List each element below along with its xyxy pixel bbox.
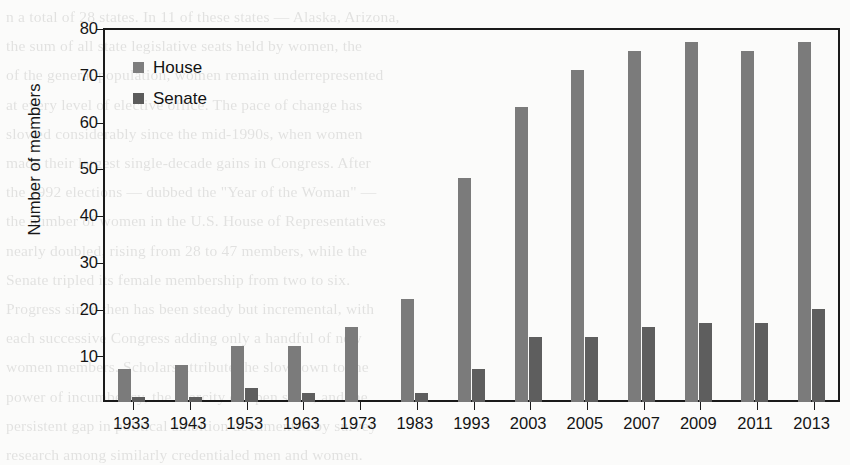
legend-item-senate: Senate xyxy=(133,83,207,114)
y-tick-label: 20 xyxy=(64,300,98,319)
bar-senate-2009 xyxy=(699,323,712,402)
y-tick-label: 70 xyxy=(64,66,98,85)
bar-group xyxy=(685,28,712,402)
x-tick-label: 1943 xyxy=(160,414,216,433)
bar-senate-1963 xyxy=(302,393,315,402)
bar-house-1953 xyxy=(231,346,244,402)
y-tick-label: 10 xyxy=(64,347,98,366)
bar-house-2011 xyxy=(741,51,754,402)
bar-senate-1943 xyxy=(189,397,202,402)
y-axis-title: Number of members xyxy=(25,30,44,290)
bar-group xyxy=(401,28,428,402)
bar-senate-1993 xyxy=(472,369,485,402)
bar-group xyxy=(231,28,258,402)
bar-senate-2005 xyxy=(585,337,598,402)
x-tick-label: 2013 xyxy=(784,414,840,433)
bar-group xyxy=(628,28,655,402)
x-axis-tick-labels: 1933194319531963197319831993200320052007… xyxy=(103,414,840,444)
bar-group xyxy=(741,28,768,402)
bar-group xyxy=(288,28,315,402)
bar-house-2009 xyxy=(685,42,698,402)
legend-item-house: House xyxy=(133,52,207,83)
bar-chart: Number of members 80 70 60 50 40 30 20 1… xyxy=(0,0,850,465)
y-axis-tick-labels: 80 70 60 50 40 30 20 10 xyxy=(42,0,98,465)
bar-house-2003 xyxy=(515,107,528,402)
bar-house-2007 xyxy=(628,51,641,402)
bar-house-1963 xyxy=(288,346,301,402)
bar-house-1973 xyxy=(345,327,358,402)
bar-house-2005 xyxy=(571,70,584,402)
chart-legend: House Senate xyxy=(133,52,207,114)
bar-senate-2007 xyxy=(642,327,655,402)
y-tick-label: 40 xyxy=(64,206,98,225)
bar-house-1933 xyxy=(118,369,131,402)
legend-swatch-house-icon xyxy=(133,62,144,73)
legend-swatch-senate-icon xyxy=(133,93,144,104)
bar-group xyxy=(515,28,542,402)
y-tick-label: 80 xyxy=(64,19,98,38)
bar-group xyxy=(571,28,598,402)
bar-senate-2003 xyxy=(529,337,542,402)
x-tick-label: 2005 xyxy=(557,414,613,433)
bar-house-1943 xyxy=(175,365,188,402)
bar-senate-1983 xyxy=(415,393,428,402)
bar-senate-2013 xyxy=(812,309,825,403)
bar-group xyxy=(798,28,825,402)
x-tick-label: 2003 xyxy=(500,414,556,433)
bar-senate-2011 xyxy=(755,323,768,402)
y-tick-label: 60 xyxy=(64,113,98,132)
x-tick-label: 2007 xyxy=(614,414,670,433)
x-tick-label: 1973 xyxy=(330,414,386,433)
bar-group xyxy=(345,28,372,402)
figure-page: n a total of 28 states. In 11 of these s… xyxy=(0,0,850,465)
bar-senate-1953 xyxy=(245,388,258,402)
bar-senate-1933 xyxy=(132,397,145,402)
bar-house-2013 xyxy=(798,42,811,402)
x-tick-label: 2011 xyxy=(727,414,783,433)
x-tick-label: 1993 xyxy=(444,414,500,433)
x-tick-label: 1933 xyxy=(103,414,159,433)
x-tick-label: 1963 xyxy=(273,414,329,433)
legend-label-senate: Senate xyxy=(153,89,207,109)
bar-house-1993 xyxy=(458,178,471,402)
x-tick-label: 1983 xyxy=(387,414,443,433)
x-tick-label: 1953 xyxy=(217,414,273,433)
bar-group xyxy=(458,28,485,402)
y-tick-label: 50 xyxy=(64,159,98,178)
legend-label-house: House xyxy=(153,58,202,78)
bar-house-1983 xyxy=(401,299,414,402)
y-tick-label: 30 xyxy=(64,253,98,272)
x-tick-label: 2009 xyxy=(670,414,726,433)
bar-series-container xyxy=(103,28,840,402)
